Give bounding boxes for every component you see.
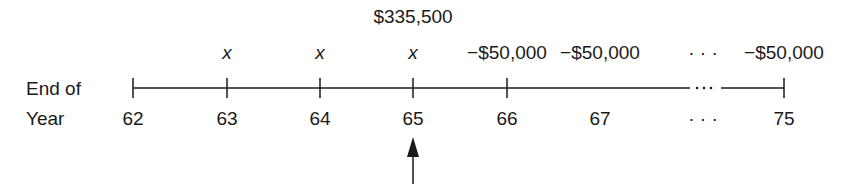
year-63: 63	[216, 108, 237, 130]
year-64: 64	[309, 108, 330, 130]
year-75: 75	[773, 108, 794, 130]
ellipsis-bottom: · · ·	[688, 108, 718, 130]
timeline-graphic	[0, 0, 854, 196]
year-67: 67	[589, 108, 610, 130]
arrow-up-icon	[407, 137, 419, 157]
year-65: 65	[402, 108, 423, 130]
year-62: 62	[122, 108, 143, 130]
year-66: 66	[496, 108, 517, 130]
